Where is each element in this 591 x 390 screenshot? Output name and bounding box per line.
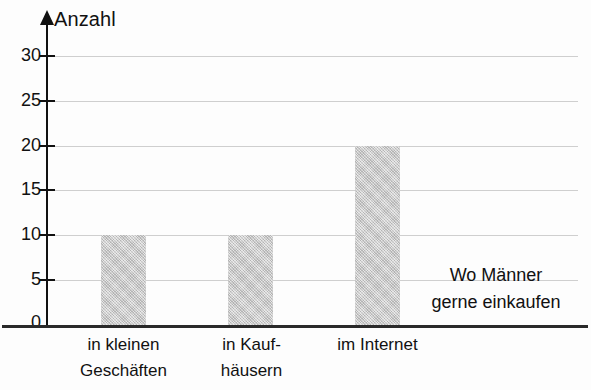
x-label-im-internet: im Internet: [312, 332, 443, 358]
tick-mark-10: [39, 234, 55, 236]
bar-in-kaufhaeusern: [228, 235, 273, 325]
y-tick-label-5: 5: [7, 270, 41, 288]
bar-im-internet: [355, 146, 400, 325]
gridline-30: [47, 56, 578, 57]
gridline-25: [47, 101, 578, 102]
y-tick-label-25: 25: [7, 91, 41, 109]
tick-mark-5: [39, 279, 55, 281]
gridline-15: [47, 190, 578, 191]
y-tick-label-15: 15: [7, 180, 41, 198]
y-axis-title: Anzahl: [54, 8, 116, 31]
bar-in-kleinen-geschaeften: [101, 235, 146, 325]
x-axis-line: [2, 325, 588, 328]
gridline-20: [47, 146, 578, 147]
y-tick-label-30: 30: [7, 46, 41, 64]
tick-mark-20: [39, 145, 55, 147]
y-tick-label-20: 20: [7, 136, 41, 154]
bar-chart: Anzahl 30 25 20 15 10 5 0 in kleinen Ges…: [0, 0, 591, 390]
y-tick-label-10: 10: [7, 225, 41, 243]
x-label-in-kaufhaeusern: in Kauf- häusern: [186, 332, 317, 384]
tick-mark-15: [39, 189, 55, 191]
y-axis-arrow-icon: [40, 10, 54, 25]
tick-mark-30: [39, 55, 55, 57]
x-label-in-kleinen-geschaeften: in kleinen Geschäften: [58, 332, 189, 384]
y-tick-label-0: 0: [7, 313, 41, 331]
tick-mark-25: [39, 100, 55, 102]
chart-annotation: Wo Männer gerne einkaufen: [411, 262, 581, 316]
